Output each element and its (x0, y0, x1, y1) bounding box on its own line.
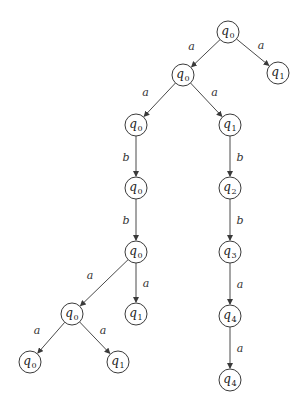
state-subscript: 0 (229, 31, 234, 40)
state-subscript: 1 (279, 72, 284, 81)
edge: a (188, 40, 220, 67)
state-label: q (129, 244, 137, 258)
edge: a (230, 263, 243, 304)
state-subscript: 0 (137, 251, 142, 260)
edge: a (230, 327, 243, 368)
edge: a (34, 322, 65, 353)
edge-label: a (211, 86, 218, 99)
state-node: q0 (172, 64, 194, 86)
computation-tree-diagram: aaaabbbbaaaaaa q0q0q1q0q1q0q2q0q3q0q1q4q… (0, 0, 305, 414)
state-label: q (223, 117, 231, 131)
edge: b (122, 199, 136, 240)
state-node: q4 (219, 369, 241, 391)
edge-label: a (237, 278, 244, 291)
edge: b (122, 136, 136, 176)
state-label: q (23, 354, 31, 368)
state-node: q1 (125, 303, 147, 325)
state-label: q (129, 306, 137, 320)
edge-label: b (236, 214, 243, 227)
state-subscript: 0 (184, 74, 189, 83)
state-label: q (221, 24, 229, 38)
edge-label: a (34, 324, 41, 337)
edge-label: a (237, 342, 244, 355)
state-node: q0 (125, 241, 147, 263)
state-subscript: 4 (231, 379, 236, 388)
edge: b (230, 199, 244, 240)
state-label: q (223, 180, 231, 194)
state-subscript: 4 (231, 315, 236, 324)
nodes-layer: q0q0q1q0q1q0q2q0q3q0q1q4q0q1q4 (19, 21, 289, 391)
state-label: q (129, 117, 137, 131)
edge-label: b (122, 214, 129, 227)
state-label: q (111, 354, 119, 368)
edge-arrow (38, 322, 65, 353)
edge: a (237, 39, 269, 66)
state-label: q (65, 306, 73, 320)
state-node: q0 (125, 114, 147, 136)
state-subscript: 0 (31, 361, 36, 370)
state-node: q0 (19, 351, 41, 373)
state-node: q0 (61, 303, 83, 325)
state-label: q (129, 180, 137, 194)
edge-label: a (100, 324, 107, 337)
state-node: q3 (219, 241, 241, 263)
edge: a (191, 83, 222, 116)
state-label: q (271, 65, 279, 79)
edge-arrow (144, 83, 175, 116)
state-label: q (223, 244, 231, 258)
state-subscript: 2 (231, 187, 236, 196)
edge: a (136, 263, 149, 302)
edge-label: a (188, 40, 195, 53)
edge-label: b (236, 151, 243, 164)
state-node: q0 (125, 177, 147, 199)
edge-label: b (122, 151, 129, 164)
state-node: q1 (107, 351, 129, 373)
state-subscript: 1 (231, 124, 236, 133)
state-node: q1 (219, 114, 241, 136)
state-label: q (223, 372, 231, 386)
state-subscript: 0 (73, 313, 78, 322)
state-subscript: 0 (137, 124, 142, 133)
edge: b (230, 136, 244, 176)
edge-arrow (192, 40, 220, 67)
edge-label: a (258, 39, 265, 52)
state-node: q4 (219, 305, 241, 327)
state-node: q0 (217, 21, 239, 43)
state-subscript: 0 (137, 187, 142, 196)
state-subscript: 1 (119, 361, 124, 370)
state-label: q (176, 67, 184, 81)
edge-label: a (87, 269, 94, 282)
edge-label: a (143, 277, 150, 290)
state-node: q2 (219, 177, 241, 199)
state-node: q1 (267, 62, 289, 84)
edge-label: a (142, 86, 149, 99)
state-subscript: 3 (231, 251, 236, 260)
state-subscript: 1 (137, 313, 142, 322)
state-label: q (223, 308, 231, 322)
edge: a (142, 83, 175, 116)
edge-arrow (81, 260, 128, 306)
edge: a (81, 260, 128, 306)
edge: a (80, 322, 110, 353)
